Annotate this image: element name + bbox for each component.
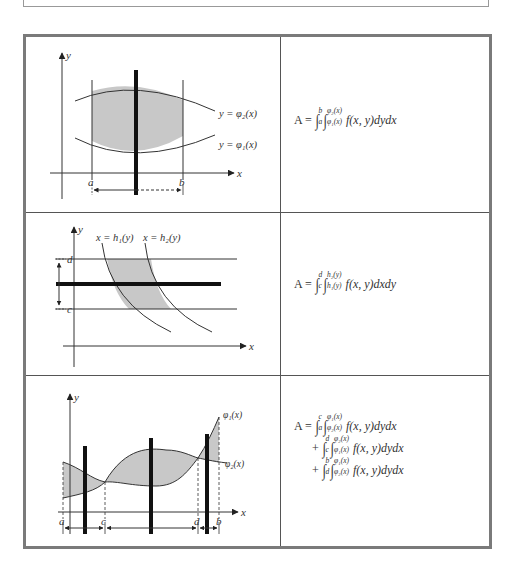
- inner-lower-limit: h₁(y): [327, 282, 342, 290]
- bound-label-b: b: [179, 176, 185, 188]
- inner-integral-sign: ∫: [331, 440, 335, 457]
- formula-line: +∫bd∫φ₁(x)φ₂(x)f(x, y)dydx: [294, 459, 404, 481]
- outer-integral-sign: ∫: [322, 440, 326, 457]
- outer-integral-sign: ∫: [315, 276, 319, 293]
- mixed-region-diagram: y x a c d b φ₁(x) φ₂(x): [26, 376, 280, 546]
- inner-lower-limit: φ₁(x): [334, 446, 349, 454]
- upper-curve-label: y = φ₂(x): [218, 108, 258, 120]
- inner-limits: φ₂(x)φ₁(x): [334, 443, 349, 454]
- area-equals: A =: [294, 277, 312, 292]
- bound-label-a: a: [59, 515, 65, 527]
- formula-type-x: A =∫ba∫φ₂(x)φ₁(x)f(x, y)dydx: [294, 109, 397, 131]
- inner-upper-limit: h₂(y): [327, 271, 342, 279]
- integration-region-table: y x a b y = φ₂(x) y = φ₁(x): [23, 34, 492, 549]
- area-equals: A =: [294, 419, 312, 434]
- integrand: f(x, y)dydx: [346, 419, 397, 434]
- plus-sign: +: [312, 441, 319, 456]
- inner-integral-sign: ∫: [324, 276, 328, 293]
- inner-lower-limit: φ₂(x): [327, 424, 342, 432]
- x-axis-label: x: [248, 340, 254, 352]
- integrand: f(x, y)dydx: [353, 463, 404, 478]
- lower-curve-label: y = φ₁(x): [218, 139, 258, 151]
- curve-phi1-label: φ₁(x): [223, 410, 242, 421]
- bound-label-d: d: [194, 515, 200, 527]
- inner-lower-limit: φ₂(x): [334, 468, 349, 476]
- inner-upper-limit: φ₁(x): [334, 457, 349, 465]
- curve-phi2-label: φ₂(x): [225, 459, 244, 470]
- column-divider: [280, 37, 281, 546]
- type-x-region-diagram: y x a b y = φ₂(x) y = φ₁(x): [26, 37, 280, 212]
- inner-integral-sign: ∫: [331, 462, 335, 479]
- inner-lower-limit: φ₁(x): [327, 118, 342, 126]
- inner-integral-sign: ∫: [324, 418, 328, 435]
- inner-limits: φ₁(x)φ₂(x): [327, 421, 342, 432]
- formula-mixed: A =∫ca∫φ₁(x)φ₂(x)f(x, y)dydx+∫dc∫φ₂(x)φ₁…: [294, 415, 404, 481]
- plus-sign: +: [312, 463, 319, 478]
- bound-label-a: a: [88, 176, 94, 188]
- formula-type-y: A =∫dc∫h₂(y)h₁(y)f(x, y)dxdy: [294, 273, 396, 295]
- inner-limits: φ₁(x)φ₂(x): [334, 465, 349, 476]
- inner-integral-sign: ∫: [324, 112, 328, 129]
- curve-h1-label: x = h₁(y): [95, 232, 134, 244]
- inner-upper-limit: φ₂(x): [334, 435, 349, 443]
- y-axis-label: y: [73, 391, 79, 403]
- type-y-region-diagram: y x d c x = h₁(y) x = h₂(y): [26, 213, 280, 376]
- formula-line: A =∫ba∫φ₂(x)φ₁(x)f(x, y)dydx: [294, 109, 397, 131]
- integrand: f(x, y)dxdy: [346, 277, 397, 292]
- inner-upper-limit: φ₁(x): [327, 413, 342, 421]
- integrand: f(x, y)dydx: [346, 113, 397, 128]
- x-axis-label: x: [240, 506, 246, 518]
- y-axis-label: y: [65, 49, 71, 61]
- inner-limits: h₂(y)h₁(y): [327, 279, 342, 290]
- inner-upper-limit: φ₂(x): [327, 107, 342, 115]
- outer-integral-sign: ∫: [322, 462, 326, 479]
- outer-integral-sign: ∫: [315, 418, 319, 435]
- bound-label-c: c: [101, 515, 106, 527]
- bound-label-d: d: [67, 253, 73, 265]
- y-axis-label: y: [77, 223, 83, 235]
- curve-h2-label: x = h₂(y): [142, 232, 181, 244]
- outer-integral-sign: ∫: [315, 112, 319, 129]
- area-equals: A =: [294, 113, 312, 128]
- top-box: [23, 0, 489, 7]
- formula-line: A =∫dc∫h₂(y)h₁(y)f(x, y)dxdy: [294, 273, 396, 295]
- bound-label-b: b: [216, 515, 222, 527]
- bound-label-c: c: [67, 303, 72, 315]
- inner-limits: φ₂(x)φ₁(x): [327, 115, 342, 126]
- x-axis-label: x: [236, 167, 242, 179]
- integrand: f(x, y)dydx: [353, 441, 404, 456]
